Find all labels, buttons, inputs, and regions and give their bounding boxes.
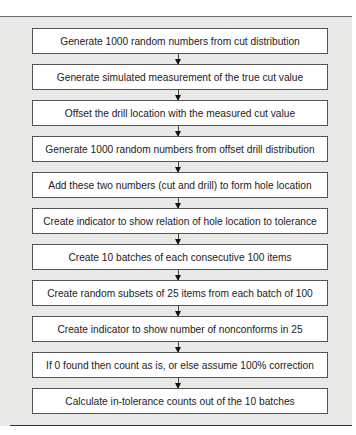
step-box-10: If 0 found then count as is, or else ass… — [32, 352, 328, 378]
step-box-9: Create indicator to show number of nonco… — [32, 316, 328, 342]
step-box-3: Offset the drill location with the measu… — [32, 100, 328, 126]
step-box-8: Create random subsets of 25 items from e… — [32, 280, 328, 306]
arrow-down-icon — [178, 342, 179, 352]
step-label: Create indicator to show relation of hol… — [43, 216, 317, 227]
arrow-down-icon — [178, 234, 179, 244]
step-label: Generate 1000 random numbers from cut di… — [60, 36, 300, 47]
step-label: Create 10 batches of each consecutive 10… — [68, 252, 291, 263]
step-label: Calculate in-tolerance counts out of the… — [65, 396, 294, 407]
step-label: Offset the drill location with the measu… — [65, 108, 295, 119]
step-box-5: Add these two numbers (cut and drill) to… — [32, 172, 328, 198]
arrow-down-icon — [178, 378, 179, 388]
step-box-2: Generate simulated measurement of the tr… — [32, 64, 328, 90]
arrow-down-icon — [178, 54, 179, 64]
step-label: Generate 1000 random numbers from offset… — [45, 144, 314, 155]
step-label: Create random subsets of 25 items from e… — [47, 288, 313, 299]
arrow-down-icon — [178, 270, 179, 280]
arrow-down-icon — [178, 90, 179, 100]
bottom-divider — [10, 425, 352, 426]
arrow-down-icon — [178, 126, 179, 136]
step-box-11: Calculate in-tolerance counts out of the… — [32, 388, 328, 414]
arrow-down-icon — [178, 198, 179, 208]
step-label: Create indicator to show number of nonco… — [57, 324, 302, 335]
step-box-7: Create 10 batches of each consecutive 10… — [32, 244, 328, 270]
step-box-1: Generate 1000 random numbers from cut di… — [32, 28, 328, 54]
step-label: Add these two numbers (cut and drill) to… — [48, 180, 311, 191]
arrow-down-icon — [178, 162, 179, 172]
step-box-6: Create indicator to show relation of hol… — [32, 208, 328, 234]
step-label: Generate simulated measurement of the tr… — [57, 72, 303, 83]
step-box-4: Generate 1000 random numbers from offset… — [32, 136, 328, 162]
step-label: If 0 found then count as is, or else ass… — [46, 360, 314, 371]
arrow-down-icon — [178, 306, 179, 316]
